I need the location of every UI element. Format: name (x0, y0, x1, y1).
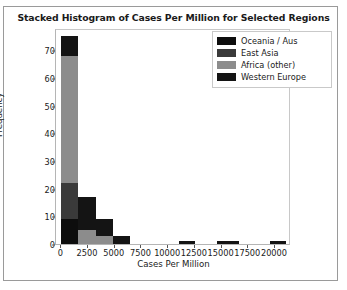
bar-segment (61, 183, 78, 219)
x-tick-mark (140, 245, 141, 248)
x-tick-label: 17500 (234, 248, 260, 258)
bar-segment (61, 36, 78, 55)
x-tick-mark (247, 245, 248, 248)
y-tick-label: 70 (15, 46, 55, 56)
y-tick-label: 40 (15, 129, 55, 139)
legend-label: Oceania / Aus (241, 36, 298, 46)
x-tick-mark (274, 245, 275, 248)
y-tick-label: 30 (15, 157, 55, 167)
x-tick-mark (114, 245, 115, 248)
legend-label: Western Europe (241, 72, 306, 82)
bar-segment (217, 241, 238, 244)
y-tick-label: 0 (15, 240, 55, 250)
bar-segment (61, 56, 78, 183)
y-tick-mark (52, 106, 55, 107)
legend-item: East Asia (217, 47, 327, 59)
bar-segment (78, 230, 95, 244)
histogram-bar (61, 36, 78, 244)
bar-segment (270, 241, 286, 244)
y-tick-mark (52, 78, 55, 79)
chart-legend: Oceania / AusEast AsiaAfrica (other)West… (212, 31, 332, 88)
bar-segment (96, 219, 113, 236)
bar-segment (96, 236, 113, 244)
legend-swatch (217, 49, 236, 57)
x-axis-label: Cases Per Million (0, 259, 347, 269)
histogram-bar (113, 236, 130, 244)
legend-item: Africa (other) (217, 59, 327, 71)
bar-segment (61, 219, 78, 244)
x-tick-label: 5000 (103, 248, 124, 258)
x-tick-mark (60, 245, 61, 248)
x-tick-label: 10000 (154, 248, 180, 258)
legend-item: Oceania / Aus (217, 35, 327, 47)
x-tick-mark (167, 245, 168, 248)
bar-segment (78, 197, 95, 230)
histogram-bar (78, 197, 95, 244)
x-tick-label: 0 (58, 248, 63, 258)
y-tick-label: 10 (15, 212, 55, 222)
y-tick-mark (52, 217, 55, 218)
legend-swatch (217, 73, 236, 81)
x-tick-label: 20000 (261, 248, 287, 258)
y-tick-mark (52, 161, 55, 162)
histogram-bar (96, 219, 113, 244)
legend-label: Africa (other) (241, 60, 295, 70)
legend-swatch (217, 37, 236, 45)
x-tick-mark (87, 245, 88, 248)
x-tick-mark (221, 245, 222, 248)
x-tick-mark (194, 245, 195, 248)
x-tick-label: 2500 (77, 248, 98, 258)
histogram-bar (270, 241, 286, 244)
legend-label: East Asia (241, 48, 278, 58)
bar-segment (113, 236, 130, 244)
y-tick-label: 60 (15, 74, 55, 84)
chart-figure: Stacked Histogram of Cases Per Million f… (0, 0, 347, 290)
x-tick-label: 7500 (130, 248, 151, 258)
x-tick-label: 15000 (208, 248, 234, 258)
bar-segment (179, 241, 195, 244)
y-tick-mark (52, 51, 55, 52)
histogram-bar (179, 241, 195, 244)
legend-swatch (217, 61, 236, 69)
y-tick-mark (52, 134, 55, 135)
y-axis-label: Frequency (0, 93, 4, 137)
y-tick-mark (52, 245, 55, 246)
chart-title: Stacked Histogram of Cases Per Million f… (0, 12, 347, 23)
y-tick-label: 50 (15, 102, 55, 112)
x-tick-label: 12500 (181, 248, 207, 258)
y-tick-label: 20 (15, 185, 55, 195)
legend-item: Western Europe (217, 71, 327, 83)
y-tick-mark (52, 189, 55, 190)
histogram-bar (217, 241, 238, 244)
